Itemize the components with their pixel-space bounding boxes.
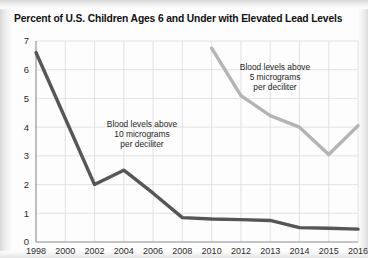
series-lines xyxy=(36,48,358,229)
series-line-1 xyxy=(36,52,358,229)
x-tick-label: 2004 xyxy=(114,246,134,256)
y-tick-label: 5 xyxy=(24,93,29,104)
y-tick-label: 4 xyxy=(24,122,29,133)
x-tick-label: 2002 xyxy=(85,246,105,256)
x-tick-label: 1998 xyxy=(26,246,46,256)
line-chart-plot: 01234567 1998200020022004200620082010201… xyxy=(0,0,368,258)
y-tick-label: 7 xyxy=(24,35,29,46)
x-tick-label: 2006 xyxy=(143,246,163,256)
y-tick-label: 2 xyxy=(24,179,29,190)
x-tick-label: 2008 xyxy=(172,246,192,256)
annotation-line: per deciliter xyxy=(120,139,164,149)
x-tick-label: 2013 xyxy=(260,246,280,256)
y-axis-tick-labels: 01234567 xyxy=(24,35,29,247)
annotation-line: 10 micrograms xyxy=(114,129,169,139)
x-tick-label: 2012 xyxy=(231,246,251,256)
y-tick-label: 3 xyxy=(24,150,29,161)
annotation-5-micrograms: Blood levels above5 microgramsper decili… xyxy=(240,62,311,92)
x-tick-label: 2014 xyxy=(289,246,309,256)
chart-figure: Percent of U.S. Children Ages 6 and Unde… xyxy=(0,0,368,258)
annotation-line: per deciliter xyxy=(253,82,297,92)
x-tick-label: 2010 xyxy=(202,246,222,256)
annotation-line: Blood levels above xyxy=(240,62,311,72)
y-tick-label: 6 xyxy=(24,64,29,75)
x-tick-label: 2015 xyxy=(319,246,339,256)
annotation-10-micrograms: Blood levels above10 microgramsper decil… xyxy=(107,119,178,149)
y-tick-label: 1 xyxy=(24,208,29,219)
x-axis-tick-labels: 1998200020022004200620082010201220132014… xyxy=(26,246,368,256)
annotation-line: 5 micrograms xyxy=(250,72,301,82)
chart-annotations: Blood levels above10 microgramsper decil… xyxy=(107,62,311,149)
x-tick-label: 2000 xyxy=(55,246,75,256)
annotation-line: Blood levels above xyxy=(107,119,178,129)
x-tick-label: 2016 xyxy=(348,246,368,256)
